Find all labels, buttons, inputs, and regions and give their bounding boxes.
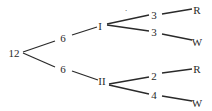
level3-node-4: 4 [151, 90, 157, 101]
level1-node-lower: 6 [60, 64, 66, 75]
dot-mark: · [125, 7, 128, 15]
tree-branches [0, 0, 212, 111]
leaf-R-2: R [193, 64, 200, 75]
tree-diagram: 12 6 6 I II · 3 3 2 4 R W R W [0, 0, 212, 111]
leaf-W-2: W [192, 98, 202, 109]
leaf-W-1: W [192, 37, 202, 48]
level2-node-I: I [98, 21, 102, 32]
level1-node-upper: 6 [60, 33, 66, 44]
level3-node-3: 2 [151, 71, 157, 82]
root-node: 12 [9, 48, 20, 59]
level3-node-1: 3 [151, 10, 157, 21]
level3-node-2: 3 [151, 27, 157, 38]
leaf-R-1: R [193, 5, 200, 16]
level2-node-II: II [98, 76, 105, 87]
